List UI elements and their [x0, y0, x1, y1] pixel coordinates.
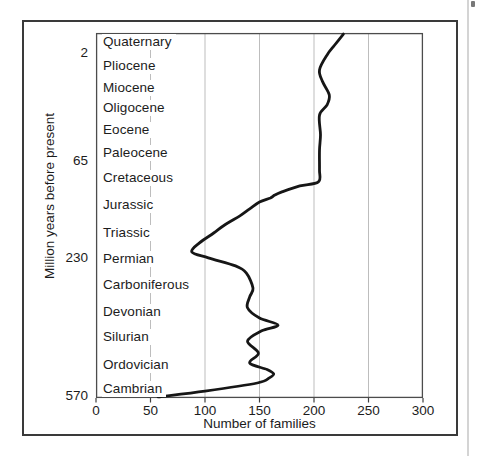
period-label-paleocene: Paleocene	[102, 145, 172, 161]
period-label-carboniferous: Carboniferous	[102, 277, 193, 293]
plot-area: QuaternaryPlioceneMioceneOligoceneEocene…	[96, 33, 423, 404]
period-label-miocene: Miocene	[102, 80, 159, 96]
families-curve	[158, 34, 343, 397]
period-label-jurassic: Jurassic	[102, 197, 157, 213]
period-label-oligocene: Oligocene	[102, 100, 169, 116]
period-label-eocene: Eocene	[102, 122, 153, 138]
period-label-quaternary: Quaternary	[102, 34, 176, 50]
period-label-triassic: Triassic	[102, 225, 154, 241]
period-label-silurian: Silurian	[102, 329, 153, 345]
period-label-permian: Permian	[102, 251, 158, 267]
y-tick-label-570: 570	[26, 388, 88, 404]
period-label-pliocene: Pliocene	[102, 58, 160, 74]
period-label-cambrian: Cambrian	[102, 381, 166, 397]
period-label-devonian: Devonian	[102, 304, 165, 320]
x-axis-title: Number of families	[96, 416, 423, 432]
page-edge-line	[467, 0, 469, 456]
period-label-cretaceous: Cretaceous	[102, 170, 177, 186]
page-corner-speck	[471, 1, 475, 7]
period-label-ordovician: Ordovician	[102, 357, 173, 373]
figure-canvas: QuaternaryPlioceneMioceneOligoceneEocene…	[0, 0, 477, 456]
y-axis-title: Million years before present	[42, 113, 58, 279]
y-tick-label-2: 2	[26, 45, 88, 61]
